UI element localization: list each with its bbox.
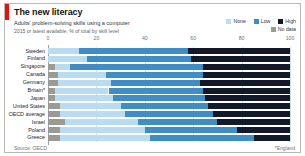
bar-row[interactable] [48,127,290,133]
legend-swatch-icon [226,19,231,24]
bar-row[interactable] [48,64,290,70]
legend-label: High [285,18,296,24]
category-label: United States [13,103,45,109]
bar-segment-high[interactable] [237,127,290,133]
x-axis-tick-label: 40 [142,35,148,41]
bar-segment-low[interactable] [113,95,205,101]
legend-row-primary: NoneLowHigh [221,17,296,25]
category-labels: SwedenFinlandSingaporeCanadaGermanyBrita… [0,47,45,143]
bar-segment-low[interactable] [87,56,191,62]
bar-segment-none[interactable] [55,95,113,101]
legend-swatch-icon [254,19,259,24]
bar-segment-no-data[interactable] [48,119,65,125]
bar-row[interactable] [48,135,290,141]
bar-row[interactable] [48,111,290,117]
chart-title: The new literacy [14,7,82,17]
category-label: Israel [32,119,45,125]
bar-segment-high[interactable] [208,103,290,109]
bar-segment-low[interactable] [109,88,203,94]
bar-segment-low[interactable] [79,48,188,54]
category-label: Germany [23,79,45,85]
bar-row[interactable] [48,56,290,62]
bar-row[interactable] [48,80,290,86]
bar-segment-low[interactable] [121,103,208,109]
bar-segment-high[interactable] [254,135,290,141]
x-axis-tick-label: 100 [286,35,295,41]
bar-segment-high[interactable] [203,88,290,94]
bar-segment-no-data[interactable] [48,103,60,109]
legend-item-no-data[interactable]: No data [271,26,296,32]
chart-subtitle-secondary: 2015 or latest available, % of total by … [14,28,119,34]
bar-segment-no-data[interactable] [48,64,55,70]
category-label: Poland [28,127,45,133]
category-label: OECD average [8,111,45,117]
chart-card: The new literacy Adults' problem-solving… [0,0,305,156]
bar-segment-high[interactable] [188,48,290,54]
category-label: Finland [27,55,45,61]
category-label: Japan [30,95,45,101]
bar-segment-none[interactable] [60,111,125,117]
x-axis-tick-label: 0 [47,35,50,41]
footnote: *England [275,145,295,151]
category-label: Britain* [28,87,45,93]
x-axis-tick-label: 60 [190,35,196,41]
bar-segment-no-data[interactable] [48,88,55,94]
bar-row[interactable] [48,119,290,125]
bar-segment-low[interactable] [125,111,212,117]
bar-row[interactable] [48,103,290,109]
bar-row[interactable] [48,88,290,94]
source-note: Source: OECD [14,145,47,151]
bar-row[interactable] [48,95,290,101]
x-axis-tick-label: 80 [239,35,245,41]
bar-segment-no-data[interactable] [48,72,58,78]
bar-segment-none[interactable] [55,64,70,70]
bar-segment-no-data[interactable] [48,80,58,86]
bar-segment-high[interactable] [203,64,290,70]
brand-accent-bar [5,4,9,20]
bar-segment-no-data[interactable] [48,95,55,101]
bar-segment-none[interactable] [60,135,150,141]
legend-item-low[interactable]: Low [254,18,271,24]
bar-row[interactable] [48,48,290,54]
bar-segment-none[interactable] [60,103,121,109]
legend-item-high[interactable]: High [278,18,296,24]
bar-segment-none[interactable] [58,80,111,86]
bar-segment-high[interactable] [203,72,290,78]
plot-area: 020406080100 [48,47,290,143]
legend-row-secondary: No data [221,25,296,33]
grid-line [290,47,291,142]
bar-segment-low[interactable] [111,80,201,86]
bar-segment-high[interactable] [200,80,290,86]
bar-segment-low[interactable] [70,64,203,70]
bar-segment-none[interactable] [58,72,106,78]
bar-segment-no-data[interactable] [48,111,60,117]
bar-segment-high[interactable] [191,56,290,62]
bar-segment-none[interactable] [65,119,138,125]
bar-segment-low[interactable] [138,119,218,125]
legend-item-none[interactable]: None [226,18,245,24]
bar-segment-high[interactable] [213,111,290,117]
bar-segment-none[interactable] [48,56,87,62]
x-axis-tick-label: 20 [94,35,100,41]
legend-label: None [233,18,245,24]
bar-segment-no-data[interactable] [48,135,60,141]
bar-segment-low[interactable] [145,127,237,133]
bar-segment-high[interactable] [205,95,290,101]
bar-segment-none[interactable] [55,88,108,94]
bar-segment-no-data[interactable] [48,127,60,133]
chart-subtitle-primary: Adults' problem-solving skills using a c… [14,20,130,26]
category-label: Sweden [26,48,45,54]
category-label: Singapore [20,63,45,69]
legend-swatch-icon [271,27,276,32]
bar-segment-none[interactable] [48,48,79,54]
bar-row[interactable] [48,72,290,78]
category-label: Greece [27,134,45,140]
category-label: Canada [26,71,45,77]
bar-segment-none[interactable] [60,127,145,133]
chart-legend: NoneLowHigh No data [221,17,296,33]
legend-label: No data [278,26,296,32]
bar-segment-high[interactable] [217,119,290,125]
bar-segment-low[interactable] [106,72,203,78]
legend-swatch-icon [278,19,283,24]
bar-segment-low[interactable] [150,135,254,141]
